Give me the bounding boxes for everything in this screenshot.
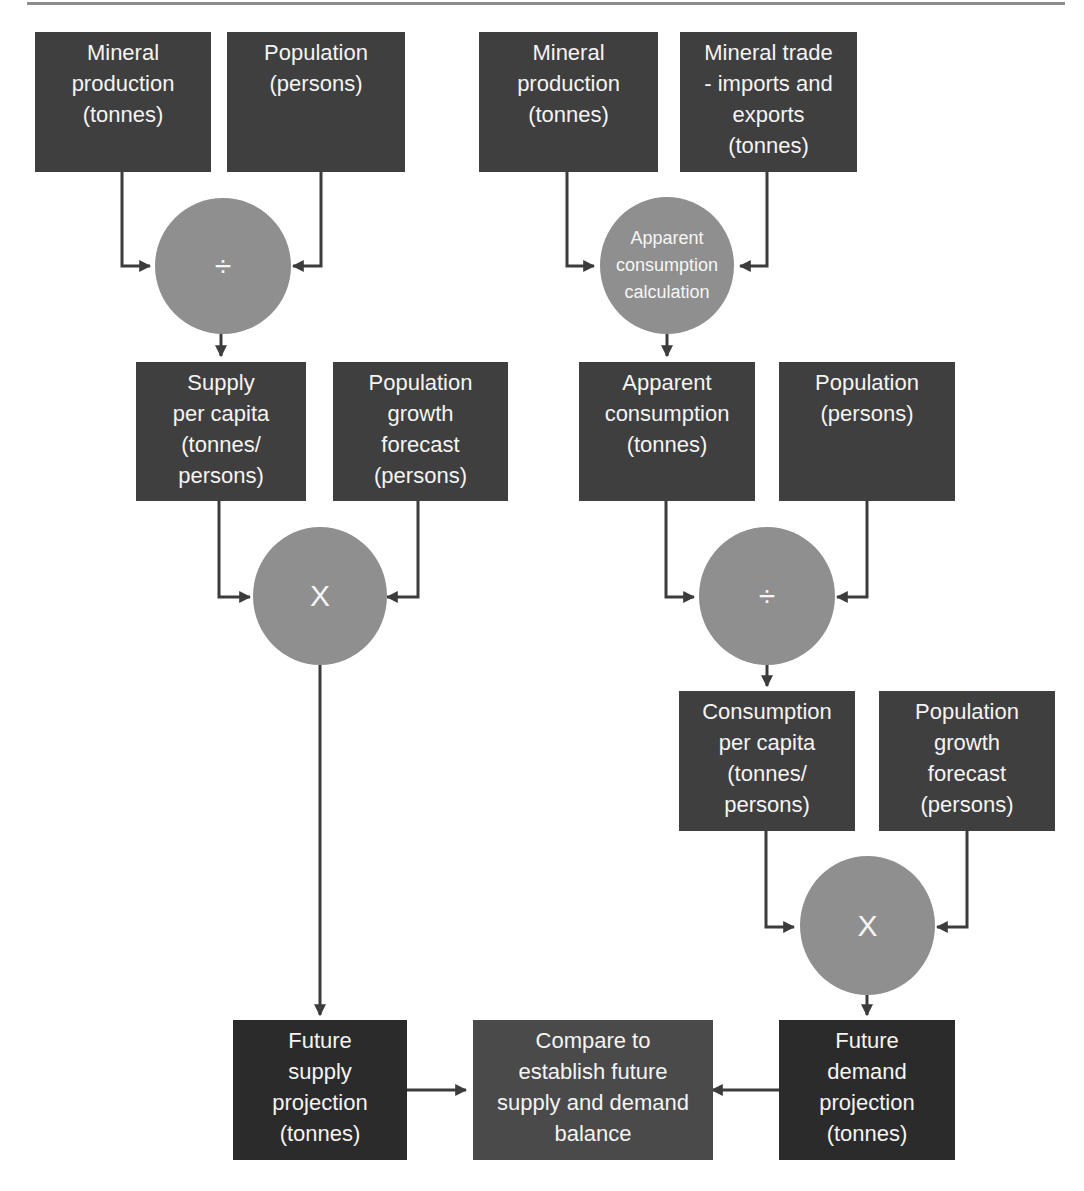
divide-icon: ÷ [759,579,775,613]
demand-population-box: Population (persons) [779,362,955,501]
supply-per-capita-box: Supply per capita (tonnes/ persons) [136,362,306,501]
apparent-consumption-calculation-label: Apparent consumption calculation [616,225,718,306]
supply-mineral-production-box: Mineral production (tonnes) [35,32,211,172]
future-demand-projection-box: Future demand projection (tonnes) [779,1020,955,1160]
supply-divide-operator: ÷ [155,198,291,334]
multiply-icon: X [310,579,330,613]
apparent-consumption-calculation-operator: Apparent consumption calculation [600,197,734,334]
compare-balance-box: Compare to establish future supply and d… [473,1020,713,1160]
demand-population-growth-forecast-box: Population growth forecast (persons) [879,691,1055,831]
consumption-per-capita-box: Consumption per capita (tonnes/ persons) [679,691,855,831]
supply-population-box: Population (persons) [227,32,405,172]
demand-multiply-operator: X [800,856,935,995]
demand-divide-operator: ÷ [699,527,835,665]
future-supply-projection-box: Future supply projection (tonnes) [233,1020,407,1160]
supply-multiply-operator: X [253,527,387,665]
multiply-icon: X [857,909,877,943]
supply-population-growth-forecast-box: Population growth forecast (persons) [333,362,508,501]
connectors [0,0,1084,1191]
demand-mineral-production-box: Mineral production (tonnes) [479,32,658,172]
mineral-trade-box: Mineral trade - imports and exports (ton… [680,32,857,172]
divide-icon: ÷ [215,249,231,283]
apparent-consumption-box: Apparent consumption (tonnes) [579,362,755,501]
